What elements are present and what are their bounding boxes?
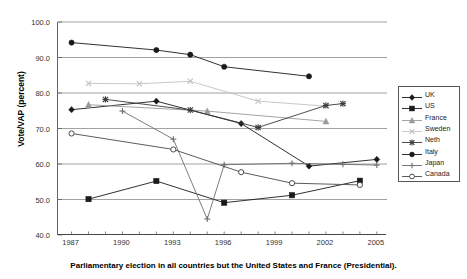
- x-tick-label: 1996: [215, 238, 232, 247]
- legend-marker-circle-filled-icon: [401, 146, 423, 157]
- data-point-plus: [119, 108, 125, 114]
- data-point-star: [340, 101, 346, 107]
- data-point-diamond: [69, 107, 75, 113]
- chart-caption: Parliamentary election in all countries …: [0, 261, 467, 270]
- data-point-circle-open: [357, 182, 362, 187]
- data-point-diamond: [153, 98, 159, 104]
- legend-label: UK: [425, 89, 435, 100]
- data-point-circle-filled: [154, 47, 159, 52]
- legend-label: Italy: [425, 146, 438, 157]
- data-point-square: [154, 178, 159, 183]
- y-tick-label: 50.0: [16, 195, 50, 204]
- data-point-square: [289, 193, 294, 198]
- data-point-circle-filled: [188, 52, 193, 57]
- legend-item-us[interactable]: US: [401, 100, 457, 111]
- data-point-plus: [170, 136, 176, 142]
- legend-item-canada[interactable]: Canada: [401, 168, 457, 179]
- data-point-plus: [374, 162, 380, 168]
- legend-marker-triangle-icon: [401, 112, 423, 123]
- legend-item-italy[interactable]: Italy: [401, 145, 457, 156]
- data-point-square: [410, 107, 415, 112]
- data-point-circle-filled: [69, 40, 74, 45]
- plot-area: [57, 22, 386, 235]
- series-italy: [69, 40, 312, 79]
- legend-label: Japan: [425, 157, 444, 168]
- legend-label: Canada: [425, 168, 450, 179]
- data-point-circle-filled: [222, 64, 227, 69]
- chart-container: Vote/VAP (percent) 40.050.060.070.080.09…: [0, 0, 467, 279]
- data-point-circle-open: [289, 181, 294, 186]
- series-canada: [69, 131, 362, 188]
- legend-marker-x-icon: [401, 123, 423, 134]
- data-point-circle-filled: [306, 74, 311, 79]
- data-point-star: [187, 107, 193, 113]
- series-us: [86, 178, 363, 205]
- y-tick-label: 40.0: [16, 231, 50, 240]
- legend-item-uk[interactable]: UK: [401, 89, 457, 100]
- legend-item-neth[interactable]: Neth: [401, 134, 457, 145]
- legend-marker-star-icon: [401, 134, 423, 145]
- data-point-star: [102, 96, 108, 102]
- y-tick-label: 80.0: [16, 89, 50, 98]
- x-tick-label: 1987: [62, 238, 79, 247]
- data-point-plus: [204, 216, 210, 222]
- y-tick-label: 90.0: [16, 53, 50, 62]
- legend-item-france[interactable]: France: [401, 112, 457, 123]
- data-point-plus: [289, 160, 295, 166]
- legend-label: Sweden: [425, 123, 450, 134]
- data-point-circle-open: [410, 174, 415, 179]
- x-tick-label: 1999: [266, 238, 283, 247]
- data-point-circle-filled: [410, 152, 415, 157]
- legend-marker-plus-icon: [401, 157, 423, 168]
- x-axis-tick-labels: 1987199019931996199920022005: [57, 238, 387, 252]
- legend-label: France: [425, 112, 447, 123]
- x-tick-label: 1993: [164, 238, 181, 247]
- chart-legend: UKUSFranceSwedenNethItalyJapanCanada: [398, 86, 460, 182]
- data-point-circle-open: [239, 170, 244, 175]
- legend-marker-diamond-icon: [401, 89, 423, 100]
- legend-label: Neth: [425, 134, 440, 145]
- legend-label: US: [425, 100, 435, 111]
- data-point-circle-open: [171, 147, 176, 152]
- legend-item-sweden[interactable]: Sweden: [401, 123, 457, 134]
- data-point-diamond: [374, 156, 380, 162]
- y-axis-tick-labels: 40.050.060.070.080.090.0100.0: [14, 0, 50, 279]
- plot-svg: [58, 22, 387, 235]
- legend-item-japan[interactable]: Japan: [401, 157, 457, 168]
- x-tick-label: 1990: [113, 238, 130, 247]
- data-point-square: [86, 197, 91, 202]
- y-tick-label: 100.0: [16, 18, 50, 27]
- series-neth: [102, 96, 346, 130]
- data-point-square: [222, 200, 227, 205]
- legend-marker-circle-open-icon: [401, 168, 423, 179]
- y-tick-label: 60.0: [16, 160, 50, 169]
- data-point-star: [255, 124, 261, 130]
- data-point-star: [323, 102, 329, 108]
- series-uk: [69, 98, 380, 169]
- x-tick-label: 2005: [367, 238, 384, 247]
- legend-marker-square-icon: [401, 100, 423, 111]
- x-tick-label: 2002: [317, 238, 334, 247]
- data-point-circle-open: [69, 131, 74, 136]
- y-tick-label: 70.0: [16, 124, 50, 133]
